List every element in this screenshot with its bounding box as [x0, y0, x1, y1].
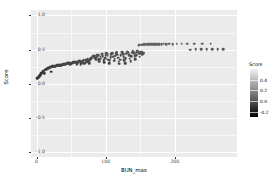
gridline-major-h	[31, 118, 237, 119]
data-point	[130, 55, 133, 58]
gridline-major-v	[106, 10, 107, 157]
data-point	[222, 48, 225, 51]
data-point	[200, 48, 203, 51]
gridline-major-h	[31, 152, 237, 153]
data-point	[118, 63, 121, 66]
legend-tick-mark	[250, 101, 258, 102]
legend-title: Score	[249, 62, 262, 67]
x-tick-mark	[37, 157, 38, 159]
data-point	[88, 62, 91, 65]
data-point	[176, 42, 179, 45]
data-point	[109, 59, 112, 62]
legend-tick-label: 0.0	[260, 99, 267, 104]
data-point	[211, 48, 214, 51]
gridline-minor-h	[31, 135, 237, 136]
chart-root: -1.0-0.50.00.51.00100200 BUN_max Score S…	[0, 0, 279, 180]
data-point	[168, 43, 171, 46]
gridline-major-v	[175, 10, 176, 157]
data-point	[43, 72, 46, 75]
legend-tick-mark	[250, 112, 258, 113]
data-point	[119, 58, 122, 61]
x-tick-mark	[106, 157, 107, 159]
legend-tick-label: -0.2	[260, 109, 269, 114]
plot-panel	[31, 10, 237, 157]
data-point	[50, 70, 53, 73]
data-point	[104, 57, 107, 60]
legend-tick-label: 0.4	[260, 77, 267, 82]
legend-tick-label: 0.2	[260, 88, 267, 93]
x-tick-mark	[175, 157, 176, 159]
x-tick-label: 200	[170, 159, 179, 164]
legend-tick-mark	[250, 80, 258, 81]
y-tick-mark	[29, 50, 31, 51]
gridline-major-h	[31, 15, 237, 16]
data-point	[189, 48, 192, 51]
legend-colorbar	[250, 69, 258, 117]
data-point	[108, 62, 111, 65]
y-tick-mark	[29, 118, 31, 119]
data-point	[142, 52, 145, 55]
legend-tick-mark	[250, 90, 258, 91]
gridline-minor-h	[31, 67, 237, 68]
legend: Score 0.40.20.0-0.2	[249, 62, 262, 69]
data-point	[98, 60, 101, 63]
data-point	[216, 48, 219, 51]
data-point	[193, 43, 196, 46]
y-axis-label: Score	[3, 57, 9, 97]
x-tick-label: 100	[101, 159, 110, 164]
data-point	[205, 48, 208, 51]
data-point	[129, 60, 132, 63]
x-axis-label: BUN_max	[31, 167, 237, 173]
data-point	[134, 58, 137, 61]
y-tick-mark	[29, 15, 31, 16]
gridline-major-h	[31, 84, 237, 85]
data-point	[180, 43, 183, 46]
gridline-minor-h	[31, 101, 237, 102]
data-point	[201, 42, 204, 45]
data-point	[186, 42, 189, 45]
data-point	[194, 48, 197, 51]
data-point	[124, 62, 127, 65]
y-tick-mark	[29, 152, 31, 153]
data-point	[138, 55, 141, 58]
data-point	[209, 43, 212, 46]
y-tick-mark	[29, 84, 31, 85]
data-point	[113, 58, 116, 61]
gridline-minor-h	[31, 33, 237, 34]
data-point	[124, 57, 127, 60]
data-point	[103, 61, 106, 64]
data-point	[171, 43, 174, 46]
x-tick-label: 0	[35, 159, 38, 164]
